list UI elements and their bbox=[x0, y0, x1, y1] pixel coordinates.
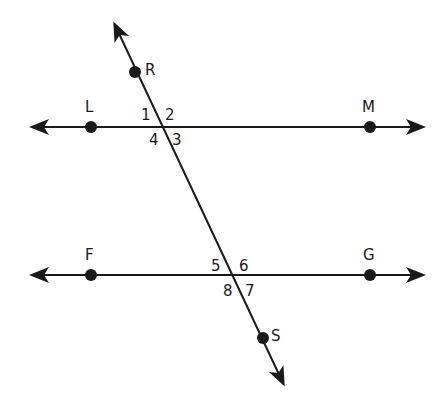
point-dot bbox=[85, 121, 97, 133]
angle-label-8: 8 bbox=[223, 282, 233, 300]
point-label: L bbox=[85, 98, 94, 116]
points-layer: RLMFGS bbox=[85, 61, 376, 345]
point-label: G bbox=[363, 246, 375, 264]
point-g: G bbox=[363, 246, 376, 281]
point-dot bbox=[85, 269, 97, 281]
point-label: F bbox=[85, 246, 94, 264]
diagram-canvas: RLMFGS 12435687 bbox=[0, 0, 446, 399]
point-f: F bbox=[85, 246, 97, 281]
point-label: M bbox=[362, 98, 375, 116]
lines-layer bbox=[33, 25, 422, 383]
point-s: S bbox=[257, 327, 281, 345]
angle-label-1: 1 bbox=[141, 106, 151, 124]
angle-label-7: 7 bbox=[245, 282, 255, 300]
point-l: L bbox=[85, 98, 97, 133]
point-label: R bbox=[145, 61, 155, 79]
point-m: M bbox=[362, 98, 376, 133]
angle-label-2: 2 bbox=[165, 106, 175, 124]
point-dot bbox=[129, 66, 141, 78]
point-label: S bbox=[271, 327, 281, 345]
angle-label-3: 3 bbox=[172, 131, 182, 149]
angle-label-5: 5 bbox=[211, 257, 221, 275]
point-dot bbox=[364, 121, 376, 133]
parallel-lines-transversal-diagram: RLMFGS 12435687 bbox=[0, 0, 446, 399]
line-rs bbox=[115, 25, 283, 383]
angle-label-6: 6 bbox=[239, 257, 249, 275]
point-dot bbox=[364, 269, 376, 281]
point-dot bbox=[257, 332, 269, 344]
angle-label-4: 4 bbox=[149, 131, 159, 149]
